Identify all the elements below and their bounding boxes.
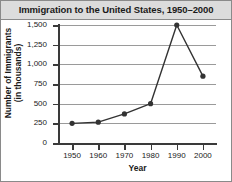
- y-axis-tick-label: 1,500: [3, 20, 47, 29]
- x-axis-tick-label: 2000: [186, 151, 220, 160]
- x-axis-tick: [151, 144, 153, 150]
- data-series: 1950: 2501960: 2651970: 3701980: 5001990…: [59, 25, 216, 143]
- data-point-marker: 2000: 850: [200, 74, 205, 79]
- data-point-marker: 1950: 250: [69, 121, 74, 126]
- data-point-marker: 1960: 265: [96, 120, 101, 125]
- x-axis-line: [58, 143, 217, 145]
- series-line: [72, 25, 203, 123]
- x-axis-tick: [124, 144, 126, 150]
- data-point-marker: 1980: 500: [148, 101, 153, 106]
- x-axis-tick: [72, 144, 74, 150]
- x-axis-title: Year: [59, 163, 216, 173]
- y-axis-title-line-1: Number of Immigrants: [3, 14, 13, 132]
- y-axis-tick-label: 500: [3, 99, 47, 108]
- y-axis-tick-label: 1,000: [3, 59, 47, 68]
- x-axis-tick: [98, 144, 100, 150]
- y-axis-title-line-2: (in thousands): [13, 14, 23, 132]
- data-point-marker: 1970: 370: [122, 111, 127, 116]
- y-axis-tick-label: 750: [3, 79, 47, 88]
- y-axis-tick-label: 1,250: [3, 40, 47, 49]
- chart-title: Immigration to the United States, 1950–2…: [1, 1, 231, 19]
- chart-figure: Immigration to the United States, 1950–2…: [0, 0, 232, 182]
- x-axis-tick: [177, 144, 179, 150]
- y-axis-tick-label: 0: [3, 138, 47, 147]
- y-axis-tick-label: 250: [3, 118, 47, 127]
- y-axis-title: Number of Immigrants (in thousands): [3, 14, 23, 132]
- x-axis-tick: [203, 144, 205, 150]
- data-point-marker: 1990: 1500: [174, 22, 179, 27]
